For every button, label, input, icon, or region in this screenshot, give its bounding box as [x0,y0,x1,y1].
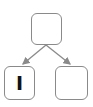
left-child-node: I [4,66,35,100]
edge-root-left [23,45,46,64]
root-node [31,13,62,45]
left-child-node-label: I [16,74,23,93]
right-child-node [55,66,88,100]
edge-root-right [46,45,70,64]
